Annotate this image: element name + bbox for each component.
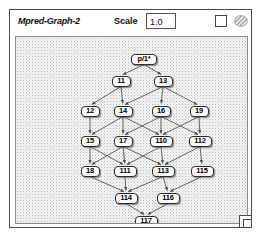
graph-node[interactable]: 14 bbox=[114, 106, 133, 117]
window-toolbar: Mpred-Graph-2 Scale 1.0 bbox=[10, 10, 251, 37]
graph-node[interactable]: 110 bbox=[150, 136, 173, 147]
graph-edge bbox=[125, 87, 163, 105]
graph-edge bbox=[121, 87, 123, 104]
resize-handle[interactable] bbox=[239, 215, 251, 227]
graph-edge bbox=[161, 117, 198, 135]
scale-label: Scale bbox=[114, 16, 138, 26]
graph-edge bbox=[123, 65, 144, 75]
graph-edge bbox=[126, 204, 144, 215]
graph-edge bbox=[125, 177, 126, 191]
graph-node[interactable]: 17 bbox=[114, 136, 133, 147]
graph-edge bbox=[92, 117, 123, 135]
graph-node[interactable]: 117 bbox=[135, 216, 158, 225]
graph-node[interactable]: 16 bbox=[152, 106, 171, 117]
graph-node[interactable]: 15 bbox=[81, 136, 100, 147]
graph-edge bbox=[128, 177, 163, 192]
graph-node[interactable]: p/1* bbox=[131, 54, 157, 65]
graph-edge bbox=[165, 147, 200, 165]
graph-node[interactable]: 113 bbox=[152, 166, 175, 177]
graph-edge bbox=[125, 117, 161, 135]
graph-edge bbox=[123, 147, 125, 164]
graph-edge bbox=[148, 204, 168, 215]
resize-handle-inner bbox=[243, 219, 251, 227]
scale-input-value: 1.0 bbox=[150, 17, 163, 27]
graph-node[interactable]: 115 bbox=[191, 166, 214, 177]
graph-edge bbox=[170, 177, 202, 192]
graph-node[interactable]: 116 bbox=[157, 193, 180, 204]
graph-node[interactable]: 114 bbox=[115, 193, 138, 204]
graph-canvas[interactable]: p/1*111312141619151711011218111113115114… bbox=[15, 36, 248, 224]
graph-edge bbox=[199, 117, 200, 134]
graph-node[interactable]: 13 bbox=[154, 76, 173, 87]
graph-edge bbox=[144, 65, 161, 75]
graph-edge bbox=[163, 177, 167, 191]
graph-edge bbox=[92, 87, 121, 105]
graph-node[interactable]: 18 bbox=[81, 166, 100, 177]
graph-edge bbox=[123, 117, 159, 135]
graph-node[interactable]: 19 bbox=[190, 106, 209, 117]
scale-input[interactable]: 1.0 bbox=[146, 13, 176, 29]
page-title: Mpred-Graph-2 bbox=[18, 16, 80, 26]
graph-edge bbox=[161, 87, 163, 104]
graph-edge bbox=[161, 147, 163, 164]
graph-edge bbox=[163, 87, 197, 105]
hatched-pattern-icon[interactable] bbox=[234, 14, 248, 28]
graph-node[interactable]: 11 bbox=[112, 76, 131, 87]
graph-node[interactable]: 12 bbox=[81, 106, 100, 117]
graph-edge bbox=[90, 177, 124, 192]
graph-node[interactable]: 112 bbox=[189, 136, 212, 147]
display-toggle-checkbox[interactable] bbox=[215, 15, 227, 27]
graph-window: Mpred-Graph-2 Scale 1.0 bbox=[9, 9, 252, 228]
graph-edge bbox=[200, 147, 202, 164]
graph-edge bbox=[163, 117, 199, 135]
graph-node[interactable]: 111 bbox=[114, 166, 137, 177]
